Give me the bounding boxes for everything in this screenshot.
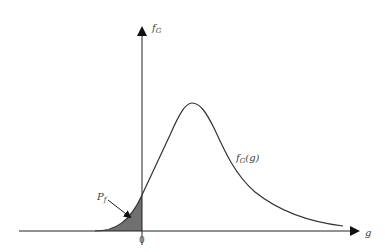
curve-label: fG(g) [235, 152, 260, 165]
x-axis-label: g [365, 227, 371, 238]
diagram-canvas: fG g 0 fG(g) Pf [0, 0, 385, 252]
pdf-diagram: fG g 0 fG(g) Pf [0, 0, 385, 252]
origin-label: 0 [139, 235, 145, 245]
pf-pointer-arrow [108, 200, 130, 217]
area-label: Pf [96, 191, 108, 204]
density-curve [95, 103, 343, 231]
y-axis-label: fG [151, 22, 162, 35]
